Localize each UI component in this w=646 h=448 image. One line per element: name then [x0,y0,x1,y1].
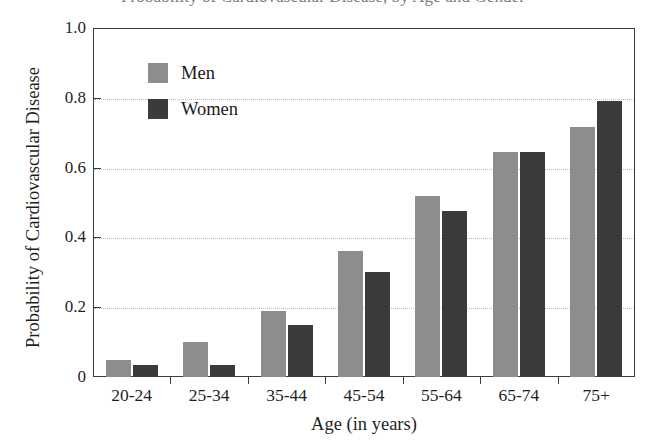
x-tick-mark [480,377,481,384]
bar-women-45-54 [365,272,390,377]
bar-men-45-54 [338,251,363,377]
x-axis-title: Age (in years) [93,414,635,435]
legend-item-women: Women [148,91,238,127]
y-axis-title: Probability of Cardiovascular Disease [23,28,44,388]
bar-men-65-74 [493,152,518,377]
legend-label-women: Women [181,100,238,119]
y-tick-label: 0.8 [42,88,86,108]
y-tick-label: 0.6 [42,158,86,178]
x-tick-mark [170,377,171,384]
x-tick-mark [248,377,249,384]
x-tick-label-75+: 75+ [551,385,641,406]
chart-legend: Men Women [148,55,238,127]
bar-women-20-24 [133,365,158,377]
x-tick-mark [403,377,404,384]
bar-men-25-34 [183,342,208,377]
chart-title-text: Probability of Cardiovascular Disease, b… [121,0,525,7]
bar-women-65-74 [520,152,545,377]
y-tick-label: 1.0 [42,18,86,38]
bar-women-75+ [597,101,622,377]
x-tick-mark [325,377,326,384]
bar-men-75+ [570,127,595,377]
bar-women-55-64 [442,211,467,377]
legend-label-men: Men [181,64,215,83]
bar-women-35-44 [288,325,313,377]
bar-men-20-24 [106,360,131,377]
y-tick-label: 0.2 [42,297,86,317]
bar-men-55-64 [415,196,440,377]
chart-title-cropped: Probability of Cardiovascular Disease, b… [0,0,646,11]
legend-swatch-women-icon [148,99,168,119]
legend-swatch-men-icon [148,63,168,83]
y-tick-label: 0 [42,367,86,387]
bar-men-35-44 [261,311,286,377]
y-tick-label: 0.4 [42,227,86,247]
x-tick-mark [558,377,559,384]
bar-women-25-34 [210,365,235,377]
legend-item-men: Men [148,55,238,91]
